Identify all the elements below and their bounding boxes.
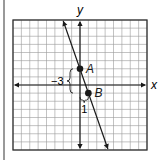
point-b [85, 90, 92, 97]
axes [14, 21, 146, 149]
run-brace [80, 97, 88, 103]
point-label-b: B [94, 86, 102, 100]
y-axis-arrow-down-icon [77, 144, 82, 149]
x-axis-label: x [150, 78, 158, 92]
point-a [77, 65, 84, 72]
x-axis-arrow-left-icon [14, 82, 19, 87]
run-label: 1 [81, 103, 87, 115]
x-axis-arrow-right-icon [141, 82, 146, 87]
rise-label: −3 [51, 75, 64, 87]
point-label-a: A [85, 62, 94, 76]
y-axis-arrow-up-icon [77, 21, 82, 26]
coordinate-plane-figure: AB x y −3 1 [0, 0, 164, 160]
rise-brace [67, 69, 73, 93]
y-axis-label: y [76, 3, 84, 17]
coordinate-plane-svg: AB x y −3 1 [0, 0, 164, 160]
